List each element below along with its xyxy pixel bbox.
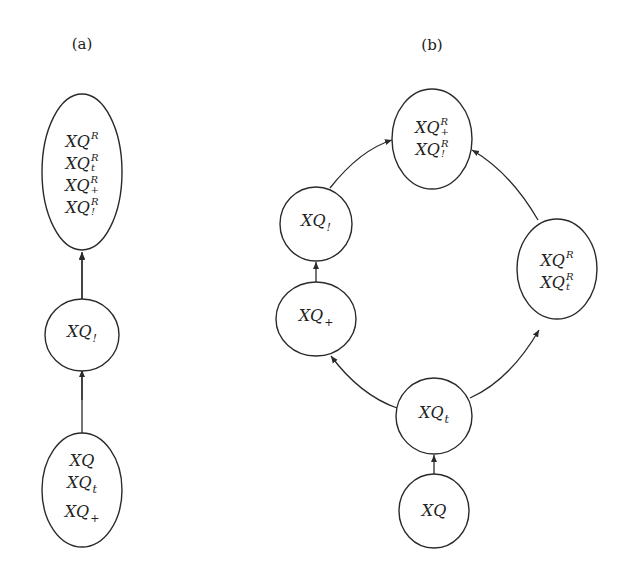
edge-b-right-to-top xyxy=(472,150,538,220)
edge-b-left-upper-to-top xyxy=(330,140,392,188)
term: XQR! xyxy=(65,197,99,219)
term: XQR xyxy=(540,244,573,272)
term: XQ xyxy=(422,500,447,522)
node-b-bottom-label: XQ xyxy=(422,500,447,522)
diagram-canvas: (a) (b) XQR XQRt XQR+ XQR! XQ! XQ XQt XQ… xyxy=(0,0,621,580)
edge-b-center-to-left-lower xyxy=(331,356,397,408)
node-b-left-lower-label: XQ+ xyxy=(299,305,334,334)
panel-label-b: (b) xyxy=(421,36,442,54)
term: XQ xyxy=(65,450,100,472)
panel-label-a: (a) xyxy=(72,35,93,53)
edge-b-center-to-right xyxy=(470,330,539,398)
node-a-top-label: XQR XQRt XQR+ XQR! xyxy=(65,125,99,219)
node-b-center-label: XQt xyxy=(419,402,449,431)
term: XQRt xyxy=(540,272,573,294)
term: XQ! xyxy=(301,210,331,239)
node-a-bottom-label: XQ XQt XQ+ xyxy=(65,450,100,530)
term: XQ+ xyxy=(65,501,100,530)
term: XQR+ xyxy=(415,117,449,139)
term: XQ+ xyxy=(299,305,334,334)
node-b-right-label: XQR XQRt xyxy=(540,244,573,294)
term: XQt xyxy=(65,472,100,501)
term: XQt xyxy=(419,402,449,431)
term: XQRt xyxy=(65,153,99,175)
node-a-mid-label: XQ! xyxy=(67,321,97,350)
term: XQR xyxy=(65,125,99,153)
node-b-top-label: XQR+ XQR! xyxy=(415,117,449,161)
term: XQ! xyxy=(67,321,97,350)
node-b-left-upper-label: XQ! xyxy=(301,210,331,239)
term: XQR+ xyxy=(65,175,99,197)
term: XQR! xyxy=(415,139,449,161)
